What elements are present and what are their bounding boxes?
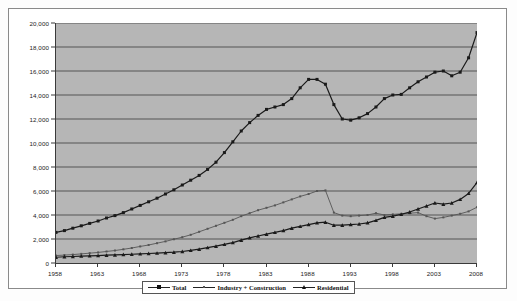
data-point: [207, 228, 209, 230]
x-axis-tick-mark: [55, 263, 56, 267]
data-point: [307, 78, 310, 81]
x-axis-tick-label: 1968: [132, 270, 146, 277]
x-axis-tick-mark: [434, 263, 435, 267]
data-point: [333, 212, 335, 214]
data-point: [214, 161, 217, 164]
x-axis-tick-label: 1958: [48, 270, 62, 277]
data-point: [358, 215, 360, 217]
data-point: [308, 193, 310, 195]
x-axis-tick-mark: [97, 263, 98, 267]
chart-plot-svg: [56, 23, 477, 263]
legend-marker-square-icon: [148, 284, 170, 291]
x-axis-tick-mark: [181, 263, 182, 267]
data-point: [299, 195, 301, 197]
data-point: [215, 225, 217, 227]
x-axis-tick-label: 1978: [216, 270, 230, 277]
data-point: [113, 214, 116, 217]
data-point: [198, 174, 201, 177]
data-point: [223, 151, 226, 154]
x-axis-tick-mark: [392, 263, 393, 267]
x-axis-tick-mark: [266, 263, 267, 267]
x-axis-tick-mark: [476, 263, 477, 267]
data-point: [425, 76, 428, 79]
data-point: [408, 86, 411, 89]
y-axis-tick-label: 8,000: [33, 164, 49, 171]
data-point: [299, 86, 302, 89]
data-point: [433, 71, 436, 74]
series-line-1: [56, 190, 477, 255]
x-axis-tick-label: 1983: [258, 270, 272, 277]
data-point: [358, 116, 361, 119]
data-point: [417, 80, 420, 83]
y-axis-tick-label: 2,000: [33, 236, 49, 243]
x-axis-tick-label: 1988: [301, 270, 315, 277]
data-point: [265, 108, 268, 111]
data-point: [181, 184, 184, 187]
data-point: [156, 242, 158, 244]
y-axis-tick-label: 20,000: [29, 20, 49, 27]
data-point: [316, 78, 319, 81]
data-point: [459, 213, 461, 215]
data-point: [291, 198, 293, 200]
data-point: [274, 204, 276, 206]
data-point: [181, 236, 183, 238]
data-point: [56, 231, 58, 234]
data-point: [139, 204, 142, 207]
legend-marker-triangle-icon: [293, 284, 315, 291]
data-point: [257, 114, 260, 117]
x-axis-tick-mark: [223, 263, 224, 267]
legend-entry[interactable]: Total: [148, 284, 186, 291]
scanned-page: 02,0004,0006,0008,00010,00012,00014,0001…: [0, 0, 517, 301]
data-point: [451, 215, 453, 217]
x-axis-tick-label: 1973: [174, 270, 188, 277]
x-axis-tick-label: 1998: [385, 270, 399, 277]
chart-legend: TotalIndustry + ConstructionResidential: [142, 281, 355, 294]
data-point: [223, 222, 225, 224]
data-point: [172, 188, 175, 191]
data-point: [468, 210, 470, 212]
legend-entry[interactable]: Industry + Construction: [193, 284, 286, 291]
data-point: [122, 211, 125, 214]
data-point: [341, 215, 343, 217]
y-axis-tick-label: 14,000: [29, 92, 49, 99]
data-point: [240, 130, 243, 133]
data-point: [130, 208, 133, 211]
data-point: [349, 119, 352, 122]
data-point: [282, 103, 285, 106]
data-point: [442, 70, 445, 73]
data-point: [164, 240, 166, 242]
chart-frame: 02,0004,0006,0008,00010,00012,00014,0001…: [8, 8, 507, 289]
y-axis-tick-label: 16,000: [29, 68, 49, 75]
data-point: [273, 106, 276, 109]
data-point: [400, 93, 403, 96]
legend-label: Total: [172, 284, 186, 291]
y-axis-tick-label: 10,000: [29, 140, 49, 147]
y-axis-tick-label: 12,000: [29, 116, 49, 123]
data-point: [391, 94, 394, 97]
data-point: [417, 212, 419, 214]
y-axis-tick-label: 6,000: [33, 188, 49, 195]
data-point: [332, 103, 335, 106]
legend-label: Residential: [317, 284, 349, 291]
data-point: [122, 248, 124, 250]
x-axis-tick-mark: [350, 263, 351, 267]
data-point: [147, 200, 150, 203]
x-axis-tick-label: 2003: [427, 270, 441, 277]
x-axis-tick-label: 2008: [469, 270, 483, 277]
data-point: [114, 250, 116, 252]
data-point: [71, 227, 74, 230]
data-point: [97, 220, 100, 223]
data-point: [475, 181, 477, 185]
x-axis-tick-label: 1993: [343, 270, 357, 277]
series-line-0: [56, 33, 477, 233]
data-point: [476, 206, 477, 208]
legend-label: Industry + Construction: [217, 284, 286, 291]
data-point: [290, 97, 293, 100]
legend-entry[interactable]: Residential: [293, 284, 349, 291]
data-point: [375, 212, 377, 214]
x-axis-tick-label: 1963: [90, 270, 104, 277]
data-point: [231, 140, 234, 143]
data-point: [374, 106, 377, 109]
data-point: [106, 250, 108, 252]
data-point: [459, 71, 462, 74]
